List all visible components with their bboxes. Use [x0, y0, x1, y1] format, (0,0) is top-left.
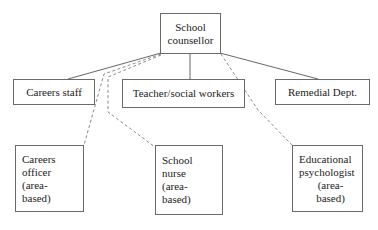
node-careers-officer-line-1: Careers	[22, 153, 56, 166]
node-school-nurse-line-4: based)	[162, 193, 191, 206]
node-teacher-social-workers[interactable]: Teacher/social workers	[122, 79, 245, 108]
node-educational-psychologist-line-4: based)	[299, 192, 362, 205]
node-educational-psychologist-line-2: psychologist	[299, 166, 355, 179]
node-school-counsellor-line-1: School	[175, 21, 206, 34]
node-educational-psychologist-line-3: (area-	[299, 179, 362, 192]
node-teacher-social-workers-label: Teacher/social workers	[133, 87, 235, 100]
node-school-counsellor[interactable]: School counsellor	[160, 13, 221, 54]
node-school-counsellor-line-2: counsellor	[168, 34, 214, 47]
edge-root-to-remedial-dept	[220, 53, 318, 79]
node-remedial-dept-label: Remedial Dept.	[288, 86, 357, 99]
node-careers-officer[interactable]: Careers officer (area- based)	[15, 145, 84, 212]
node-careers-officer-line-3: (area-	[22, 179, 48, 192]
org-chart-diagram: School counsellor Careers staff Teacher/…	[0, 0, 378, 230]
edge-root-to-careers-staff	[68, 53, 161, 79]
node-careers-staff-label: Careers staff	[26, 86, 82, 99]
node-school-nurse-line-2: nurse	[162, 167, 186, 180]
node-educational-psychologist[interactable]: Educational psychologist (area- based)	[292, 145, 363, 212]
node-careers-officer-line-4: based)	[22, 192, 51, 205]
node-educational-psychologist-line-1: Educational	[299, 153, 352, 166]
node-careers-staff[interactable]: Careers staff	[13, 79, 95, 105]
node-school-nurse-line-3: (area-	[162, 180, 188, 193]
node-school-nurse-line-1: School	[162, 154, 193, 167]
node-school-nurse[interactable]: School nurse (area- based)	[155, 145, 223, 215]
node-careers-officer-line-2: officer	[22, 166, 51, 179]
node-remedial-dept[interactable]: Remedial Dept.	[275, 79, 370, 105]
